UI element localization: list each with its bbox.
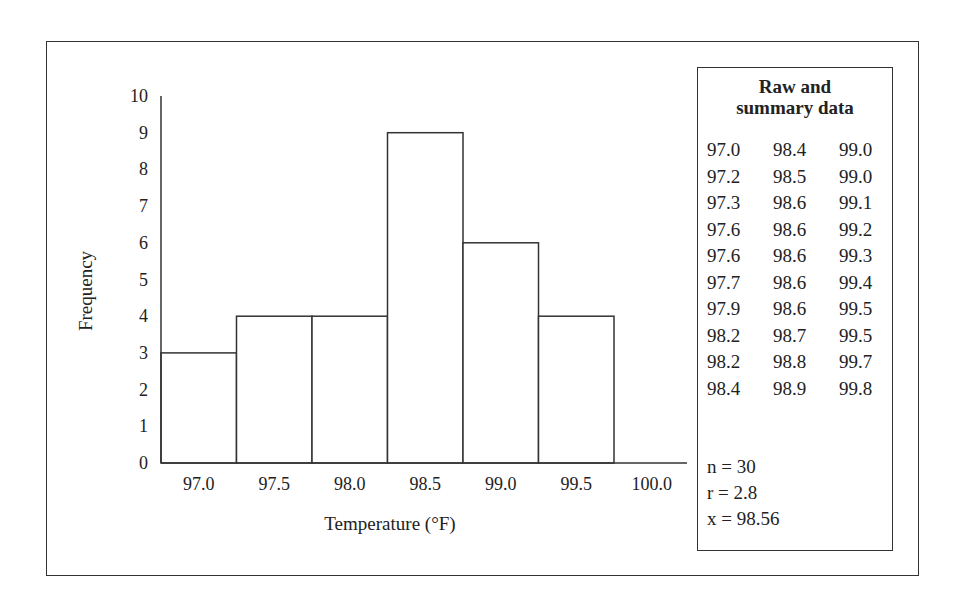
raw-data-value: 97.7 [707, 272, 773, 294]
raw-data-value: 98.6 [773, 192, 839, 214]
y-tick-label: 10 [130, 86, 148, 106]
raw-data-row: 98.298.899.7 [707, 351, 905, 373]
x-tick-label: 100.0 [632, 474, 673, 494]
raw-data-value: 98.4 [707, 378, 773, 400]
histogram-bar [463, 243, 539, 463]
panel-title-line1: Raw and [698, 76, 892, 97]
stat-n: n = 30 [707, 456, 756, 478]
raw-data-value: 98.6 [773, 219, 839, 241]
histogram-bar [388, 133, 464, 463]
raw-data-row: 97.698.699.2 [707, 219, 905, 241]
x-tick-label: 98.0 [334, 474, 366, 494]
histogram-bars [161, 133, 614, 463]
stat-mean: x = 98.56 [707, 508, 779, 530]
raw-data-value: 97.3 [707, 192, 773, 214]
raw-data-value: 98.6 [773, 245, 839, 267]
raw-data-value: 97.6 [707, 245, 773, 267]
panel-title-line2: summary data [698, 97, 892, 118]
y-tick-label: 8 [139, 159, 148, 179]
raw-data-value: 97.9 [707, 298, 773, 320]
x-tick-labels: 97.097.598.098.599.099.5100.0 [183, 474, 672, 494]
y-tick-labels: 012345678910 [130, 86, 148, 473]
stat-r: r = 2.8 [707, 482, 757, 504]
raw-data-value: 99.3 [839, 245, 905, 267]
raw-data-value: 99.5 [839, 325, 905, 347]
y-tick-label: 3 [139, 343, 148, 363]
x-tick-label: 98.5 [410, 474, 442, 494]
x-tick-label: 97.5 [259, 474, 291, 494]
raw-data-row: 97.698.699.3 [707, 245, 905, 267]
raw-data-value: 99.8 [839, 378, 905, 400]
y-axis-label: Frequency [75, 250, 96, 331]
raw-data-value: 98.6 [773, 272, 839, 294]
raw-data-row: 97.798.699.4 [707, 272, 905, 294]
raw-data-value: 99.5 [839, 298, 905, 320]
raw-data-row: 97.298.599.0 [707, 166, 905, 188]
raw-data-row: 98.498.999.8 [707, 378, 905, 400]
histogram-bar [312, 316, 388, 463]
raw-data-value: 98.5 [773, 166, 839, 188]
x-tick-label: 97.0 [183, 474, 215, 494]
raw-data-value: 98.7 [773, 325, 839, 347]
raw-data-row: 97.398.699.1 [707, 192, 905, 214]
raw-data-value: 99.4 [839, 272, 905, 294]
raw-data-row: 97.998.699.5 [707, 298, 905, 320]
histogram-bar [539, 316, 615, 463]
y-tick-label: 5 [139, 270, 148, 290]
raw-data-value: 97.0 [707, 139, 773, 161]
y-tick-label: 9 [139, 123, 148, 143]
histogram-bar [161, 353, 237, 463]
raw-data-value: 97.2 [707, 166, 773, 188]
y-tick-label: 1 [139, 416, 148, 436]
raw-data-value: 99.0 [839, 139, 905, 161]
x-axis-label: Temperature (°F) [324, 513, 455, 535]
raw-summary-panel: Raw and summary data 97.098.499.097.298.… [697, 67, 893, 551]
raw-data-value: 98.8 [773, 351, 839, 373]
raw-data-value: 99.7 [839, 351, 905, 373]
raw-data-value: 98.6 [773, 298, 839, 320]
x-tick-label: 99.5 [561, 474, 593, 494]
panel-title: Raw and summary data [698, 76, 892, 118]
x-tick-label: 99.0 [485, 474, 517, 494]
raw-data-value: 99.0 [839, 166, 905, 188]
raw-data-value: 99.1 [839, 192, 905, 214]
y-tick-label: 0 [139, 453, 148, 473]
y-tick-label: 2 [139, 380, 148, 400]
raw-data-value: 98.4 [773, 139, 839, 161]
raw-data-value: 97.6 [707, 219, 773, 241]
raw-data-row: 97.098.499.0 [707, 139, 905, 161]
y-tick-label: 7 [139, 196, 148, 216]
raw-data-value: 98.9 [773, 378, 839, 400]
raw-data-value: 98.2 [707, 325, 773, 347]
y-tick-label: 6 [139, 233, 148, 253]
histogram-bar [237, 316, 313, 463]
raw-data-value: 99.2 [839, 219, 905, 241]
y-tick-label: 4 [139, 306, 148, 326]
raw-data-row: 98.298.799.5 [707, 325, 905, 347]
raw-data-value: 98.2 [707, 351, 773, 373]
